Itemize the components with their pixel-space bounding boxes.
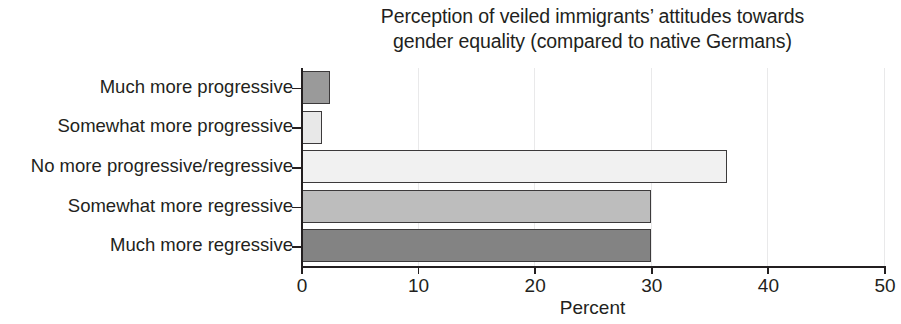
bar [301,71,330,104]
x-axis-line [301,266,885,268]
y-axis-tick [292,88,301,90]
y-axis-tick [292,167,301,169]
y-axis-tick [292,127,301,129]
x-axis-tick-label-50: 50 [874,275,895,297]
x-axis-tick-50 [884,266,886,274]
x-axis-title: Percent [301,297,884,319]
gridline-50 [884,68,885,266]
bar-row [301,147,884,187]
x-axis-tick-label-0: 0 [297,275,308,297]
y-axis-ticks [0,68,301,266]
bar [301,190,651,223]
bar-row [301,68,884,108]
x-axis-tick-0 [301,266,303,274]
bar-row [301,226,884,266]
chart-title-line-1: Perception of veiled immigrants’ attitud… [301,4,884,29]
chart-title-line-2: gender equality (compared to native Germ… [301,29,884,54]
bar [301,229,651,262]
chart-title: Perception of veiled immigrants’ attitud… [301,4,884,54]
bar [301,111,322,144]
bar-row [301,108,884,148]
x-axis-tick-label-30: 30 [641,275,662,297]
y-axis-tick [292,207,301,209]
bar-chart-figure: Perception of veiled immigrants’ attitud… [0,0,901,324]
x-axis-tick-label-20: 20 [525,275,546,297]
x-axis-tick-label-10: 10 [408,275,429,297]
x-axis-tick-20 [534,266,536,274]
bar [301,150,727,183]
y-axis-line [301,68,303,266]
x-axis-tick-10 [418,266,420,274]
x-axis-tick-30 [651,266,653,274]
bar-row [301,187,884,227]
y-axis-tick [292,246,301,248]
x-axis-tick-40 [767,266,769,274]
plot-area [301,68,884,266]
x-axis-tick-label-40: 40 [758,275,779,297]
